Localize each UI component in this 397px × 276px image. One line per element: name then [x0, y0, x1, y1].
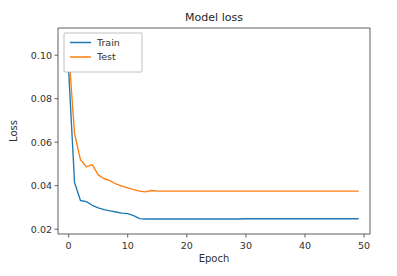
x-tick-label: 40 [299, 240, 311, 251]
legend-label-train: Train [96, 37, 120, 48]
figure-canvas: Model loss 01020304050 0.020.040.060.080… [0, 0, 397, 276]
x-tick-label: 50 [358, 240, 370, 251]
y-tick-label: 0.08 [31, 93, 52, 104]
x-tick-label: 20 [181, 240, 193, 251]
x-tick-label: 10 [122, 240, 134, 251]
y-tick-label: 0.02 [31, 224, 52, 235]
x-tick-label: 0 [66, 240, 72, 251]
chart-svg: Model loss 01020304050 0.020.040.060.080… [0, 0, 397, 276]
chart-legend[interactable]: TrainTest [64, 33, 142, 72]
y-tick-label: 0.06 [31, 137, 52, 148]
y-tick-label: 0.10 [31, 50, 52, 61]
y-tick-label: 0.04 [31, 180, 52, 191]
y-axis-label: Loss [8, 120, 19, 142]
legend-label-test: Test [96, 51, 116, 62]
x-axis-label: Epoch [199, 253, 230, 264]
chart-title: Model loss [185, 11, 243, 24]
x-tick-label: 30 [240, 240, 252, 251]
